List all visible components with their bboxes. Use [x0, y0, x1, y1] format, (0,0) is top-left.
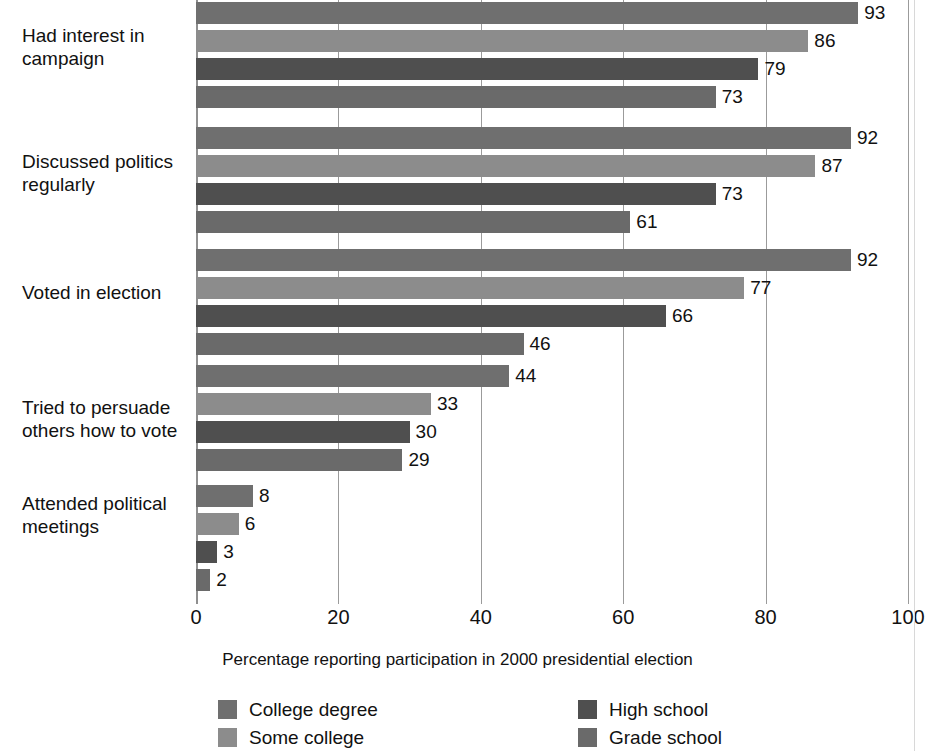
legend-swatch-icon	[218, 728, 237, 747]
category-label-1: Discussed politics regularly	[22, 150, 194, 196]
bar[interactable]	[196, 127, 851, 149]
category-label-line: campaign	[22, 47, 194, 70]
category-label-line: others how to vote	[22, 419, 194, 442]
legend-swatch-icon	[578, 728, 597, 747]
bar-value-label: 87	[815, 156, 842, 175]
gridline-100	[908, 0, 909, 604]
bar-value-label: 92	[851, 250, 878, 269]
x-tick-label-40: 40	[470, 606, 492, 628]
bar-row: 79	[196, 58, 908, 80]
legend-item-some-college[interactable]: Some college	[218, 724, 364, 750]
bar-value-label: 79	[758, 59, 785, 78]
bar-row: 2	[196, 569, 908, 591]
category-label-3: Tried to persuade others how to vote	[22, 396, 194, 442]
bar[interactable]	[196, 449, 402, 471]
category-label-line: Had interest in	[22, 24, 194, 47]
bar[interactable]	[196, 2, 858, 24]
bar-row: 92	[196, 127, 908, 149]
bar[interactable]	[196, 485, 253, 507]
legend-swatch-icon	[218, 700, 237, 719]
plot-area: 938679739287736192776646443330298632	[196, 0, 908, 604]
category-label-4: Attended political meetings	[22, 492, 194, 538]
page-edge-rule	[914, 0, 915, 751]
bar-row: 73	[196, 183, 908, 205]
category-label-line: meetings	[22, 515, 194, 538]
x-tick-label-100: 100	[891, 606, 924, 628]
x-tick-label-60: 60	[612, 606, 634, 628]
category-label-2: Voted in election	[22, 281, 194, 304]
bar-value-label: 77	[744, 278, 771, 297]
legend-label: Grade school	[609, 727, 722, 748]
bar-row: 66	[196, 305, 908, 327]
bar-value-label: 3	[217, 542, 234, 561]
legend-item-college-degree[interactable]: College degree	[218, 696, 378, 722]
bar-value-label: 66	[666, 306, 693, 325]
bar-value-label: 92	[851, 128, 878, 147]
bar-row: 44	[196, 365, 908, 387]
bar-row: 86	[196, 30, 908, 52]
legend-label: Some college	[249, 727, 364, 748]
bar[interactable]	[196, 333, 524, 355]
x-tick-label-20: 20	[327, 606, 349, 628]
category-label-line: Voted in election	[22, 281, 194, 304]
bar-value-label: 61	[630, 212, 657, 231]
bar[interactable]	[196, 211, 630, 233]
bar-row: 87	[196, 155, 908, 177]
legend-label: College degree	[249, 699, 378, 720]
category-label-line: Discussed politics	[22, 150, 194, 173]
bar[interactable]	[196, 30, 808, 52]
bar[interactable]	[196, 365, 509, 387]
bar-row: 29	[196, 449, 908, 471]
bar-row: 30	[196, 421, 908, 443]
bar-row: 8	[196, 485, 908, 507]
bar[interactable]	[196, 569, 210, 591]
bar-value-label: 73	[716, 87, 743, 106]
x-tick-label-80: 80	[754, 606, 776, 628]
bar-row: 73	[196, 86, 908, 108]
bar-value-label: 44	[509, 366, 536, 385]
bar-value-label: 29	[402, 450, 429, 469]
bar[interactable]	[196, 421, 410, 443]
legend-label: High school	[609, 699, 708, 720]
bar-row: 46	[196, 333, 908, 355]
bar-value-label: 46	[524, 334, 551, 353]
category-label-line: Attended political	[22, 492, 194, 515]
x-tick-label-0: 0	[190, 606, 201, 628]
bar-row: 77	[196, 277, 908, 299]
bar-value-label: 73	[716, 184, 743, 203]
bar[interactable]	[196, 305, 666, 327]
bar-row: 3	[196, 541, 908, 563]
legend-item-high-school[interactable]: High school	[578, 696, 708, 722]
bar[interactable]	[196, 86, 716, 108]
legend-item-grade-school[interactable]: Grade school	[578, 724, 722, 750]
bar-row: 61	[196, 211, 908, 233]
bar-row: 6	[196, 513, 908, 535]
bar-value-label: 6	[239, 514, 256, 533]
bar[interactable]	[196, 393, 431, 415]
bar[interactable]	[196, 249, 851, 271]
category-label-0: Had interest in campaign	[22, 24, 194, 70]
bar-row: 92	[196, 249, 908, 271]
category-label-line: Tried to persuade	[22, 396, 194, 419]
bar-value-label: 86	[808, 31, 835, 50]
chart-legend: College degree Some college High school …	[0, 694, 915, 751]
bar[interactable]	[196, 513, 239, 535]
bar[interactable]	[196, 58, 758, 80]
bar[interactable]	[196, 277, 744, 299]
legend-swatch-icon	[578, 700, 597, 719]
bar-row: 33	[196, 393, 908, 415]
x-axis-title: Percentage reporting participation in 20…	[0, 650, 915, 670]
bar-value-label: 93	[858, 3, 885, 22]
bar[interactable]	[196, 155, 815, 177]
bar[interactable]	[196, 541, 217, 563]
bar-value-label: 8	[253, 486, 270, 505]
bar-row: 93	[196, 2, 908, 24]
bar[interactable]	[196, 183, 716, 205]
bar-value-label: 33	[431, 394, 458, 413]
bar-value-label: 2	[210, 570, 227, 589]
bar-value-label: 30	[410, 422, 437, 441]
category-label-line: regularly	[22, 173, 194, 196]
